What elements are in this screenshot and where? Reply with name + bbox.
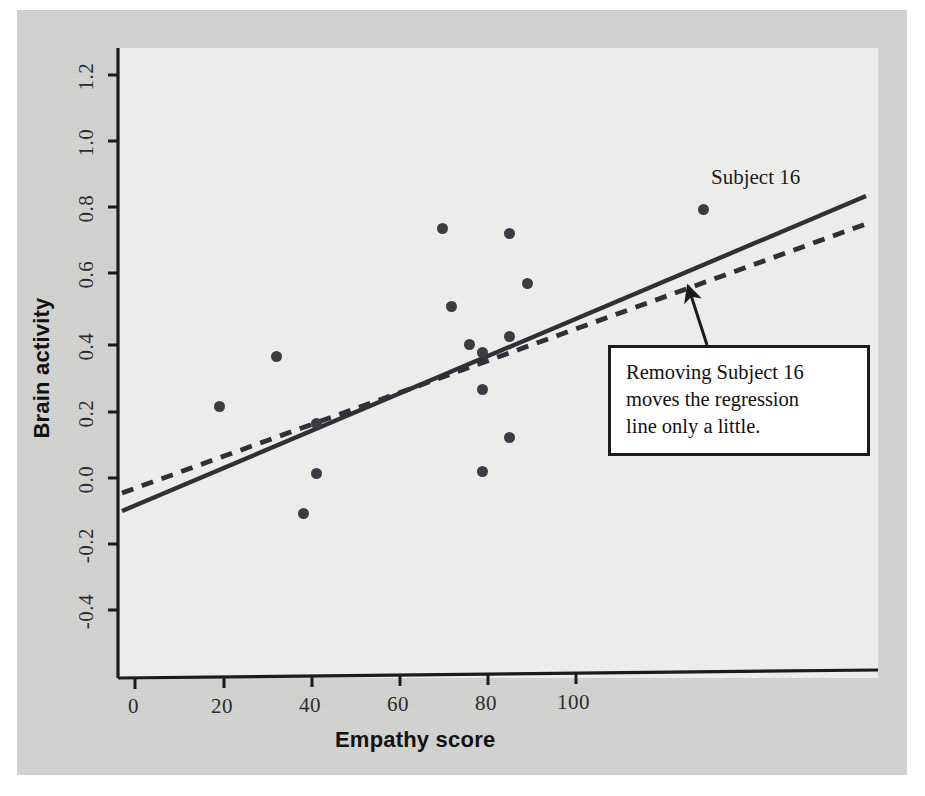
callout-arrow	[688, 286, 707, 345]
callout-line: line only a little.	[626, 413, 854, 440]
callout-line: moves the regression	[626, 386, 854, 413]
subject-16-label: Subject 16	[711, 165, 800, 190]
scanned-page: 1.2 1.0 0.8 0.6 0.4 0.2 0.0 -0.2 -0.4 0 …	[0, 0, 925, 796]
callout-line: Removing Subject 16	[626, 359, 854, 386]
callout-box: Removing Subject 16 moves the regression…	[608, 345, 870, 456]
